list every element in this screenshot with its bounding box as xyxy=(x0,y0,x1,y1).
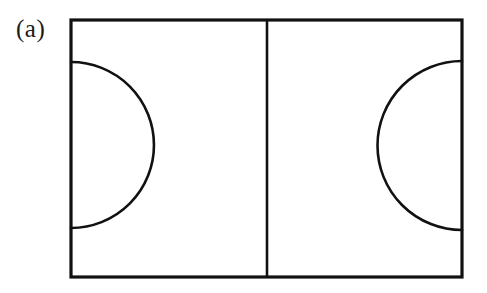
figure-root: (a) xyxy=(0,0,487,293)
right-semicircle-arc xyxy=(378,61,462,230)
court-plan-diagram xyxy=(0,0,487,293)
court-svg-canvas xyxy=(0,0,487,293)
left-semicircle-arc xyxy=(71,62,154,228)
